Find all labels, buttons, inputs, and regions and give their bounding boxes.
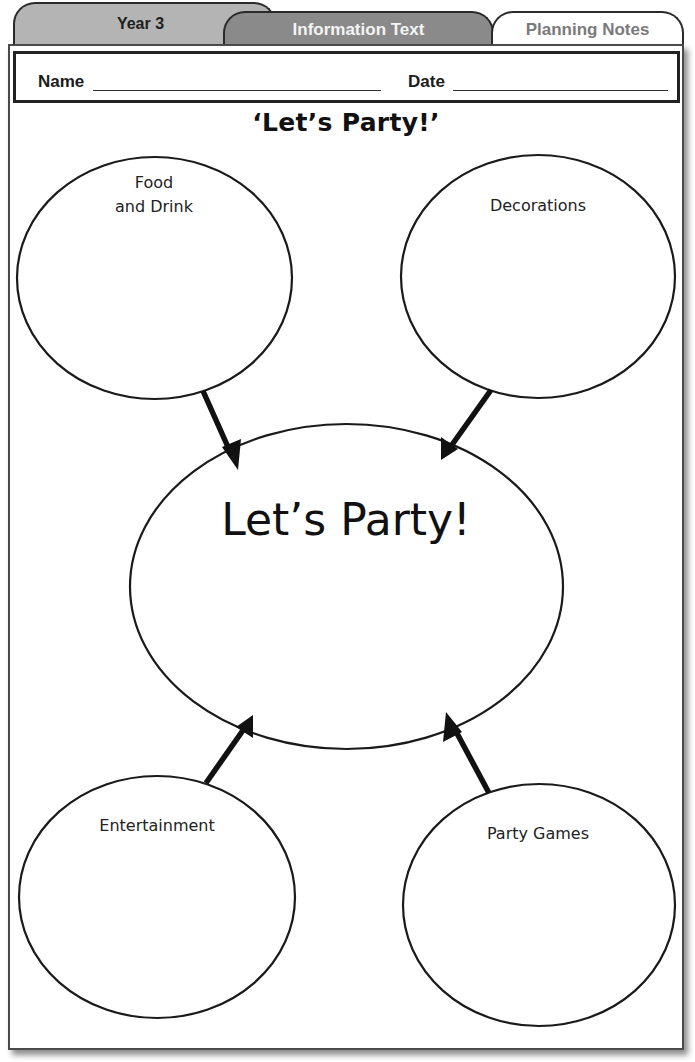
name-date-box: Name Date [13,51,680,103]
date-field[interactable] [453,90,668,91]
food-and-drink-writing-area[interactable] [17,157,292,399]
decorations-writing-area[interactable] [401,155,675,398]
name-label: Name [38,72,84,92]
central-topic-label: Let’s Party! [146,494,546,545]
party-games-writing-area[interactable] [403,784,675,1026]
date-label: Date [408,72,445,92]
name-field[interactable] [93,90,381,91]
entertainment-writing-area[interactable] [19,776,295,1018]
tab-information-text[interactable]: Information Text [223,11,494,46]
central-writing-area[interactable] [160,560,534,740]
tab-planning-notes[interactable]: Planning Notes [491,11,684,46]
page-title: ‘Let’s Party!’ [10,108,682,137]
